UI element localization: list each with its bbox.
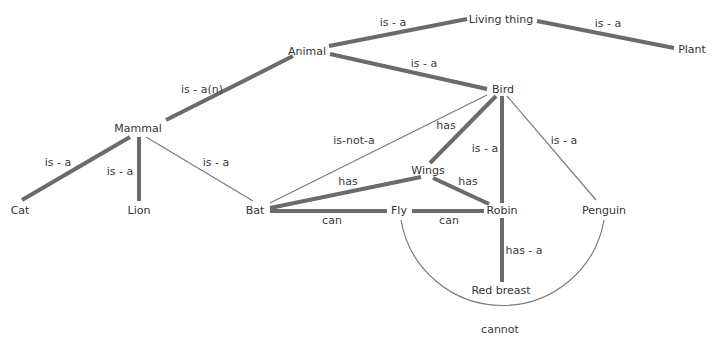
label-penguin-bird: is - a [551,134,578,147]
label-bat-bird: is-not-a [333,134,374,147]
edge-animal-bird [330,54,487,89]
edge-labels: is - a is - a is - a(n) is - a is - a is… [45,16,622,336]
node-living-thing: Living thing [469,13,534,26]
label-bat-mammal: is - a [203,156,230,169]
label-bird-animal: is - a [411,57,438,70]
label-robin-fly: can [439,214,459,227]
node-mammal: Mammal [114,122,161,135]
edge-penguin-bird [507,96,596,200]
label-bat-fly: can [322,214,342,227]
node-robin: Robin [487,204,518,217]
node-red-breast: Red breast [471,284,531,297]
label-plant-living: is - a [595,17,622,30]
label-penguin-fly: cannot [481,323,519,336]
label-animal-living: is - a [380,16,407,29]
node-wings: Wings [411,164,445,177]
label-bird-wings: has [436,119,456,132]
nodes: Living thing Plant Animal Bird Mammal Ca… [11,13,707,297]
node-penguin: Penguin [582,204,626,217]
edge-bat-mammal [146,137,253,201]
label-robin-bird: is - a [472,142,499,155]
node-fly: Fly [391,204,407,217]
label-mammal-animal: is - a(n) [181,83,223,96]
label-robin-red-breast: has - a [505,244,542,257]
label-cat-mammal: is - a [45,156,72,169]
node-animal: Animal [288,45,326,58]
label-robin-wings: has [458,175,478,188]
label-lion-mammal: is - a [107,165,134,178]
node-bat: Bat [246,204,265,217]
node-bird: Bird [492,83,514,96]
label-bat-wings: has [338,175,358,188]
node-plant: Plant [678,43,706,56]
node-cat: Cat [11,204,30,217]
node-lion: Lion [128,204,151,217]
semantic-network-diagram: is - a is - a is - a(n) is - a is - a is… [0,0,714,342]
edges [22,19,674,305]
